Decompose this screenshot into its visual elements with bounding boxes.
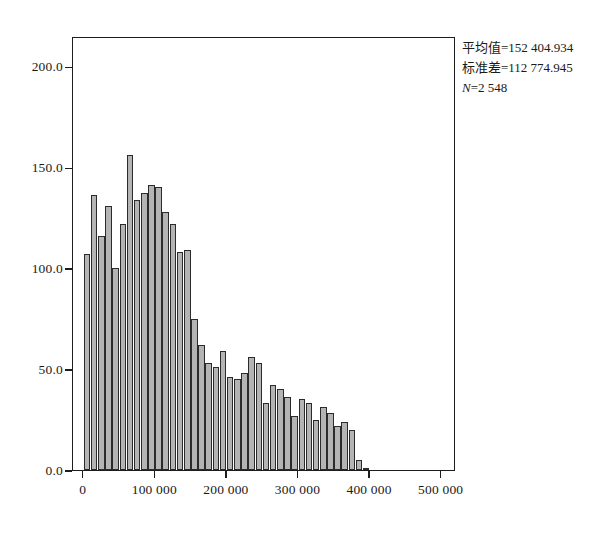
histogram-bar — [334, 426, 341, 470]
histogram-bar — [155, 187, 162, 470]
y-tick-label: 150.0 — [32, 160, 63, 176]
histogram-bars — [73, 38, 454, 470]
histogram-bar — [177, 252, 184, 470]
histogram-bar — [341, 422, 348, 470]
y-tick-mark — [65, 369, 72, 370]
histogram-bar — [263, 403, 270, 470]
y-tick-mark — [65, 268, 72, 269]
histogram-bar — [241, 373, 248, 470]
x-tick-label: 0 — [79, 482, 86, 498]
histogram-bar — [349, 430, 356, 470]
histogram-bar — [284, 397, 291, 470]
histogram-bar — [363, 468, 370, 470]
x-tick-label: 300 000 — [275, 482, 320, 498]
histogram-bar — [141, 193, 148, 470]
histogram-bar — [98, 236, 105, 470]
stddev-label: 标准差=112 774.945 — [462, 58, 597, 78]
histogram-bar — [213, 367, 220, 470]
plot-area — [72, 37, 455, 471]
n-value: =2 548 — [471, 80, 508, 95]
histogram-bar — [205, 363, 212, 470]
histogram-bar — [198, 345, 205, 470]
histogram-figure: 0.050.0100.0150.0200.0 0100 000200 00030… — [0, 0, 601, 533]
y-tick-mark — [65, 67, 72, 68]
histogram-bar — [170, 224, 177, 470]
histogram-bar — [320, 407, 327, 470]
y-axis: 0.050.0100.0150.0200.0 — [0, 0, 72, 533]
statistics-annotation: 平均值=152 404.934 标准差=112 774.945 N=2 548 — [462, 38, 597, 97]
histogram-bar — [270, 385, 277, 470]
y-tick-mark — [65, 168, 72, 169]
histogram-bar — [327, 413, 334, 470]
histogram-bar — [234, 379, 241, 470]
x-tick-mark — [368, 471, 369, 478]
mean-label: 平均值=152 404.934 — [462, 38, 597, 58]
histogram-bar — [299, 399, 306, 470]
x-tick-mark — [225, 471, 226, 478]
histogram-bar — [91, 195, 98, 470]
x-tick-label: 500 000 — [418, 482, 463, 498]
n-symbol: N — [462, 80, 471, 95]
y-tick-label: 100.0 — [32, 261, 63, 277]
histogram-bar — [184, 250, 191, 470]
x-tick-label: 400 000 — [346, 482, 391, 498]
x-tick-mark — [82, 471, 83, 478]
x-tick-mark — [297, 471, 298, 478]
histogram-bar — [306, 403, 313, 470]
histogram-bar — [291, 416, 298, 471]
y-tick-label: 200.0 — [32, 59, 63, 75]
histogram-bar — [256, 363, 263, 470]
histogram-bar — [112, 268, 119, 470]
x-tick-label: 200 000 — [203, 482, 248, 498]
histogram-bar — [120, 224, 127, 470]
histogram-bar — [134, 200, 141, 470]
histogram-bar — [277, 389, 284, 470]
histogram-bar — [248, 357, 255, 470]
x-tick-mark — [440, 471, 441, 478]
histogram-bar — [84, 254, 91, 470]
histogram-bar — [148, 185, 155, 470]
sample-size-label: N=2 548 — [462, 78, 597, 98]
histogram-bar — [162, 212, 169, 470]
histogram-bar — [356, 460, 363, 470]
x-axis: 0100 000200 000300 000400 000500 000 — [0, 471, 601, 533]
histogram-bar — [127, 155, 134, 470]
histogram-bar — [220, 351, 227, 470]
histogram-bar — [227, 377, 234, 470]
y-tick-label: 50.0 — [39, 362, 63, 378]
histogram-bar — [313, 420, 320, 470]
x-tick-label: 100 000 — [132, 482, 177, 498]
histogram-bar — [105, 206, 112, 470]
histogram-bar — [191, 319, 198, 470]
x-tick-mark — [154, 471, 155, 478]
